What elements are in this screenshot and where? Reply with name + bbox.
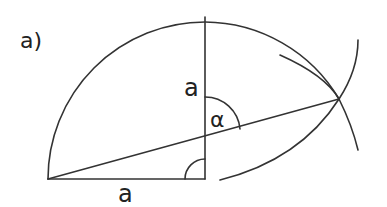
geometry-diagram: a) a α a bbox=[0, 0, 387, 207]
outer-arc-lower bbox=[280, 55, 358, 150]
horizontal-side-label: a bbox=[118, 180, 133, 207]
angle-label: α bbox=[210, 107, 225, 132]
diagonal-segment bbox=[48, 99, 339, 179]
intersecting-arc-upper bbox=[339, 40, 358, 99]
panel-label: a) bbox=[20, 28, 42, 53]
base-angle-arc bbox=[185, 159, 205, 179]
vertical-side-label: a bbox=[184, 74, 199, 102]
intersecting-arc bbox=[220, 99, 339, 180]
